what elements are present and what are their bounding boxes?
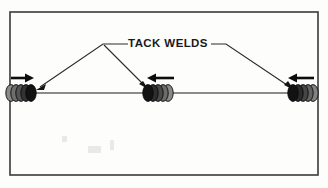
scan-artifact (62, 136, 67, 142)
diagram-canvas: TACK WELDS (0, 0, 328, 188)
travel-arrow-middle-head (147, 74, 156, 83)
tack-weld-diagram: TACK WELDS (0, 0, 328, 188)
middle-tack-weld (143, 85, 173, 102)
leader-to-left-weld (40, 44, 128, 87)
leader-to-right-weld (211, 44, 290, 87)
leader-to-middle-weld (104, 45, 144, 85)
left-tack-weld (6, 85, 36, 102)
travel-arrow-right-head (288, 74, 297, 83)
scan-artifact (88, 146, 101, 153)
scan-artifact (110, 140, 114, 150)
right-tack-weld (288, 85, 318, 102)
travel-arrow-left-head (25, 74, 34, 83)
tack-welds-label: TACK WELDS (128, 37, 208, 49)
leader-arrowhead-left (36, 84, 46, 90)
